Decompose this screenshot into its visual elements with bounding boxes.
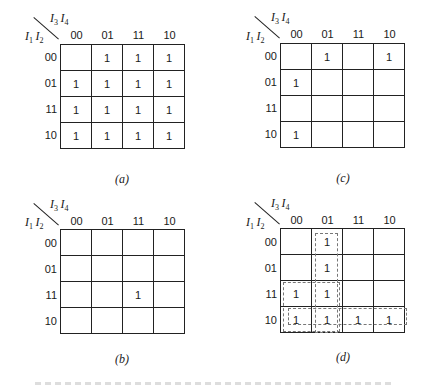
row-header: 01 bbox=[255, 262, 277, 274]
cell bbox=[123, 308, 154, 334]
row-var-label: I1 I2 bbox=[246, 215, 264, 231]
cell bbox=[343, 229, 374, 255]
row-header: 11 bbox=[35, 103, 57, 115]
cell bbox=[343, 122, 374, 148]
cell bbox=[374, 70, 405, 96]
row-var-label: I1 I2 bbox=[25, 215, 43, 231]
col-header: 00 bbox=[61, 29, 92, 41]
cell: 1 bbox=[374, 44, 405, 70]
cell bbox=[92, 256, 123, 282]
col-header: 11 bbox=[123, 215, 154, 227]
cell bbox=[281, 44, 312, 70]
cell: 1 bbox=[61, 71, 92, 97]
cell: 1 bbox=[123, 97, 154, 123]
cell bbox=[61, 308, 92, 334]
cell bbox=[374, 229, 405, 255]
caption: (b) bbox=[102, 352, 142, 367]
col-header: 01 bbox=[92, 29, 123, 41]
col-header: 10 bbox=[374, 28, 405, 40]
caption: (a) bbox=[102, 172, 142, 187]
col-var-label: I3 I4 bbox=[50, 197, 68, 213]
row-header: 10 bbox=[35, 315, 57, 327]
cell bbox=[281, 96, 312, 122]
cell: 1 bbox=[123, 45, 154, 71]
cell bbox=[312, 96, 343, 122]
kmap-grid: 11 1 1 bbox=[280, 43, 405, 148]
cell bbox=[92, 282, 123, 308]
col-header: 10 bbox=[374, 214, 405, 226]
col-header: 00 bbox=[281, 214, 312, 226]
grouping-row-10 bbox=[288, 308, 407, 325]
col-var-label: I3 I4 bbox=[271, 10, 289, 26]
cell: 1 bbox=[312, 44, 343, 70]
row-header: 11 bbox=[35, 289, 57, 301]
cell bbox=[343, 96, 374, 122]
cell: 1 bbox=[92, 45, 123, 71]
col-header: 01 bbox=[312, 28, 343, 40]
cell: 1 bbox=[154, 71, 185, 97]
kmap-grid: 111 1111 1111 1111 bbox=[60, 44, 185, 149]
col-var-label: I3 I4 bbox=[50, 11, 68, 27]
row-header: 01 bbox=[35, 77, 57, 89]
cell bbox=[154, 282, 185, 308]
cell: 1 bbox=[281, 70, 312, 96]
cell: 1 bbox=[92, 71, 123, 97]
cell bbox=[61, 256, 92, 282]
cell bbox=[61, 230, 92, 256]
row-var-label: I1 I2 bbox=[246, 29, 264, 45]
caption: (c) bbox=[323, 171, 363, 186]
row-var-label: I1 I2 bbox=[25, 29, 43, 45]
cell: 1 bbox=[92, 97, 123, 123]
cell bbox=[281, 229, 312, 255]
cell: 1 bbox=[154, 123, 185, 149]
col-header: 11 bbox=[343, 28, 374, 40]
cell bbox=[343, 44, 374, 70]
cell: 1 bbox=[154, 97, 185, 123]
row-header: 01 bbox=[255, 76, 277, 88]
cell bbox=[343, 281, 374, 307]
cell bbox=[312, 70, 343, 96]
cell: 1 bbox=[123, 282, 154, 308]
kmap-grid: 1 bbox=[60, 229, 185, 334]
kmap-c: I3 I4 I1 I2 00 01 11 10 00 01 11 10 11 1… bbox=[220, 0, 425, 170]
cell: 1 bbox=[154, 45, 185, 71]
cell: 1 bbox=[61, 97, 92, 123]
cell: 1 bbox=[123, 123, 154, 149]
col-header: 10 bbox=[154, 29, 185, 41]
kmap-d: I3 I4 I1 I2 00 01 11 10 00 01 11 10 1 1 … bbox=[220, 186, 425, 356]
cell bbox=[281, 255, 312, 281]
row-header: 00 bbox=[255, 50, 277, 62]
row-header: 10 bbox=[255, 128, 277, 140]
cell: 1 bbox=[281, 122, 312, 148]
col-header: 10 bbox=[154, 215, 185, 227]
cell bbox=[374, 96, 405, 122]
row-header: 00 bbox=[35, 237, 57, 249]
cell: 1 bbox=[92, 123, 123, 149]
cell bbox=[154, 308, 185, 334]
col-header: 00 bbox=[281, 28, 312, 40]
kmap-a: I3 I4 I1 I2 00 01 11 10 00 01 11 10 111 … bbox=[0, 0, 210, 170]
cell bbox=[374, 255, 405, 281]
cell bbox=[374, 122, 405, 148]
row-header: 11 bbox=[255, 288, 277, 300]
col-var-label: I3 I4 bbox=[271, 196, 289, 212]
row-header: 01 bbox=[35, 263, 57, 275]
col-header: 01 bbox=[312, 214, 343, 226]
caption: (d) bbox=[323, 350, 363, 365]
cell bbox=[374, 281, 405, 307]
col-header: 11 bbox=[343, 214, 374, 226]
col-header: 11 bbox=[123, 29, 154, 41]
row-header: 11 bbox=[255, 102, 277, 114]
row-header: 00 bbox=[35, 51, 57, 63]
cell bbox=[123, 230, 154, 256]
cell bbox=[154, 230, 185, 256]
cell bbox=[154, 256, 185, 282]
cell bbox=[312, 122, 343, 148]
row-header: 10 bbox=[255, 314, 277, 326]
cell bbox=[123, 256, 154, 282]
cell bbox=[61, 45, 92, 71]
cell bbox=[92, 308, 123, 334]
cell bbox=[343, 255, 374, 281]
col-header: 00 bbox=[61, 215, 92, 227]
cell: 1 bbox=[61, 123, 92, 149]
